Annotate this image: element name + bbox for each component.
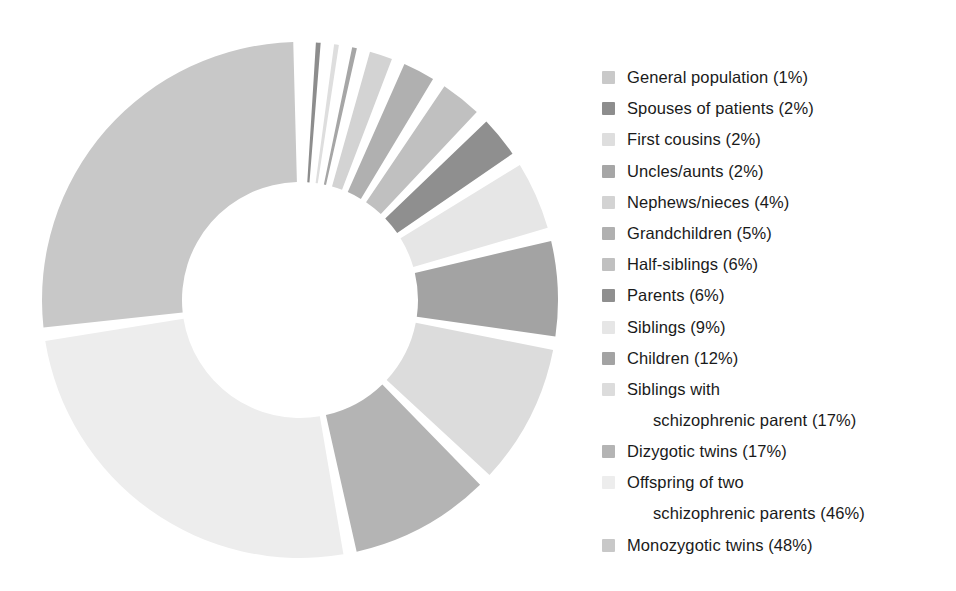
legend-item[interactable]: Uncles/aunts (2%)	[602, 160, 952, 191]
legend-item[interactable]: Spouses of patients (2%)	[602, 97, 952, 128]
legend-color-swatch	[602, 445, 615, 458]
donut-slice[interactable]	[45, 319, 343, 558]
legend-item-label: Spouses of patients (2%)	[627, 97, 814, 119]
legend-label-block: Siblings (9%)	[627, 316, 726, 338]
legend-color-swatch	[602, 476, 615, 489]
legend-item-label-continuation: schizophrenic parents (46%)	[627, 502, 865, 524]
legend-item[interactable]: Offspring of twoschizophrenic parents (4…	[602, 471, 952, 533]
legend-item[interactable]: Monozygotic twins (48%)	[602, 534, 952, 565]
legend-item[interactable]: Children (12%)	[602, 347, 952, 378]
legend-item[interactable]: Siblings (9%)	[602, 316, 952, 347]
legend-item-label: Uncles/aunts (2%)	[627, 160, 764, 182]
legend-item-label: Grandchildren (5%)	[627, 222, 772, 244]
legend-item[interactable]: Nephews/nieces (4%)	[602, 191, 952, 222]
legend-item-label: General population (1%)	[627, 66, 808, 88]
legend-item[interactable]: Grandchildren (5%)	[602, 222, 952, 253]
legend-label-block: Uncles/aunts (2%)	[627, 160, 764, 182]
legend-label-block: General population (1%)	[627, 66, 808, 88]
legend-color-swatch	[602, 71, 615, 84]
legend-item[interactable]: Siblings withschizophrenic parent (17%)	[602, 378, 952, 440]
legend-item-label: Siblings with	[627, 378, 856, 400]
legend-item-label: Parents (6%)	[627, 284, 725, 306]
legend-label-block: Grandchildren (5%)	[627, 222, 772, 244]
legend-label-block: Dizygotic twins (17%)	[627, 440, 787, 462]
legend-item[interactable]: First cousins (2%)	[602, 128, 952, 159]
donut-chart-svg	[22, 22, 578, 578]
donut-slice-group	[42, 42, 558, 558]
legend-item-label: Offspring of two	[627, 471, 865, 493]
legend-color-swatch	[602, 352, 615, 365]
legend-color-swatch	[602, 102, 615, 115]
legend-item-label: Monozygotic twins (48%)	[627, 534, 813, 556]
legend-item-label: Half-siblings (6%)	[627, 253, 758, 275]
legend-label-block: Nephews/nieces (4%)	[627, 191, 789, 213]
donut-chart-figure: General population (1%)Spouses of patien…	[0, 0, 956, 591]
legend-label-block: Siblings withschizophrenic parent (17%)	[627, 378, 856, 431]
legend-color-swatch	[602, 539, 615, 552]
legend-color-swatch	[602, 258, 615, 271]
legend-item-label-continuation: schizophrenic parent (17%)	[627, 409, 856, 431]
legend-color-swatch	[602, 321, 615, 334]
legend-label-block: Monozygotic twins (48%)	[627, 534, 813, 556]
legend-color-swatch	[602, 133, 615, 146]
legend-color-swatch	[602, 383, 615, 396]
legend-color-swatch	[602, 196, 615, 209]
legend-item-label: Children (12%)	[627, 347, 738, 369]
legend-item[interactable]: General population (1%)	[602, 66, 952, 97]
chart-legend: General population (1%)Spouses of patien…	[602, 66, 952, 565]
donut-slice[interactable]	[42, 42, 297, 327]
legend-item-label: Siblings (9%)	[627, 316, 726, 338]
legend-label-block: Spouses of patients (2%)	[627, 97, 814, 119]
legend-label-block: First cousins (2%)	[627, 128, 761, 150]
legend-color-swatch	[602, 289, 615, 302]
legend-item[interactable]: Dizygotic twins (17%)	[602, 440, 952, 471]
legend-item-label: First cousins (2%)	[627, 128, 761, 150]
legend-label-block: Parents (6%)	[627, 284, 725, 306]
donut-chart-plot-area	[22, 22, 578, 578]
legend-color-swatch	[602, 227, 615, 240]
donut-slice[interactable]	[316, 44, 339, 183]
legend-label-block: Children (12%)	[627, 347, 738, 369]
legend-item[interactable]: Half-siblings (6%)	[602, 253, 952, 284]
legend-color-swatch	[602, 165, 615, 178]
legend-label-block: Half-siblings (6%)	[627, 253, 758, 275]
legend-item[interactable]: Parents (6%)	[602, 284, 952, 315]
legend-item-label: Dizygotic twins (17%)	[627, 440, 787, 462]
legend-label-block: Offspring of twoschizophrenic parents (4…	[627, 471, 865, 524]
legend-item-label: Nephews/nieces (4%)	[627, 191, 789, 213]
